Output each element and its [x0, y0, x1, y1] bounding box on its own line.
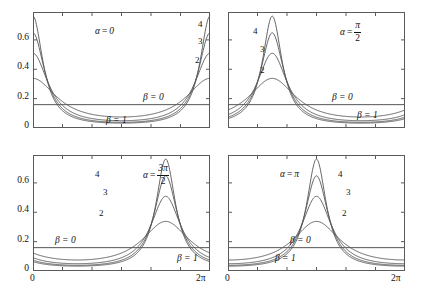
plot-area-bottom-right [228, 155, 405, 271]
xtick-label-2pi-right: 2π [391, 274, 401, 284]
beta-1-annotation-tr: β = 1 [357, 111, 378, 121]
alpha-value: π [294, 169, 299, 179]
beta-0-annotation-tl: β = 0 [143, 93, 164, 103]
beta-1-annotation-bl: β = 1 [177, 254, 198, 264]
curve-label-2-br: 2 [342, 209, 347, 218]
beta-1-annotation-tl: β = 1 [106, 116, 127, 126]
alpha-symbol: α [280, 169, 285, 179]
fraction-numerator: 3π [157, 164, 169, 174]
alpha-label-top-right: α = π 2 [340, 21, 361, 44]
equals-sign: = [102, 26, 107, 36]
curve-label-3-br: 3 [346, 188, 351, 197]
curve-label-2-tr: 2 [260, 66, 265, 75]
beta-0-annotation-bl: β = 0 [55, 236, 76, 246]
curve-label-3-tl: 3 [198, 37, 203, 46]
equals-sign: = [150, 170, 155, 180]
curve-label-4-tl: 4 [198, 20, 203, 29]
alpha-label-bottom-left: α = 3π 2 [143, 164, 169, 187]
panel-bottom-right: α = π β = 0 β = 1 4 3 2 [228, 155, 405, 271]
xtick-label-0-right: 0 [225, 274, 230, 284]
curve-label-4-tr: 4 [253, 27, 258, 36]
ytick-label-0.2-tl: 0.2 [4, 92, 29, 102]
panel-top-left: α = 0 β = 0 β = 1 4 3 2 [33, 12, 210, 128]
alpha-value: 0 [109, 26, 114, 36]
alpha-symbol: α [340, 27, 345, 37]
ytick-label-0-tl: 0 [4, 121, 29, 131]
xtick-label-0-left: 0 [30, 274, 35, 284]
alpha-label-bottom-right: α = π [280, 169, 299, 179]
curve-label-3-bl: 3 [103, 188, 108, 197]
ytick-label-0.4-bl: 0.4 [4, 205, 29, 215]
xtick-label-2pi-left: 2π [196, 274, 206, 284]
beta-0-annotation-br: β = 0 [290, 236, 311, 246]
alpha-fraction: π 2 [354, 21, 361, 44]
alpha-symbol: α [95, 26, 100, 36]
curve-label-3-tr: 3 [260, 45, 265, 54]
beta-1-annotation-br: β = 1 [275, 254, 296, 264]
curve-label-2-tl: 2 [195, 56, 200, 65]
ytick-label-0-bl: 0 [4, 264, 29, 274]
fraction-denominator: 2 [354, 34, 361, 44]
figure-canvas: α = 0 β = 0 β = 1 4 3 2 0.6 0.4 0.2 0 α … [0, 0, 427, 291]
equals-sign: = [287, 169, 292, 179]
ytick-label-0.2-bl: 0.2 [4, 235, 29, 245]
alpha-label-top-left: α = 0 [95, 26, 114, 36]
alpha-symbol: α [143, 170, 148, 180]
equals-sign: = [347, 27, 352, 37]
fraction-numerator: π [354, 21, 361, 31]
ytick-label-0.4-tl: 0.4 [4, 62, 29, 72]
ytick-label-0.6-tl: 0.6 [4, 33, 29, 43]
panel-top-right: α = π 2 β = 0 β = 1 4 3 2 [228, 12, 405, 128]
curve-label-4-br: 4 [338, 170, 343, 179]
plot-area-top-left [33, 12, 210, 128]
alpha-fraction: 3π 2 [157, 164, 169, 187]
curve-label-2-bl: 2 [99, 209, 104, 218]
ytick-label-0.6-bl: 0.6 [4, 176, 29, 186]
curve-label-4-bl: 4 [95, 170, 100, 179]
panel-bottom-left: α = 3π 2 β = 0 β = 1 4 3 2 [33, 155, 210, 271]
fraction-denominator: 2 [160, 177, 167, 187]
beta-0-annotation-tr: β = 0 [332, 93, 353, 103]
